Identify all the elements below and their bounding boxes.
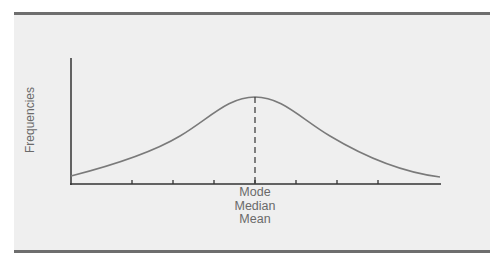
- mean-label: Mean: [205, 213, 305, 227]
- bell-curve-chart: [0, 0, 504, 267]
- center-labels: Mode Median Mean: [205, 186, 305, 227]
- median-label: Median: [205, 200, 305, 214]
- mode-label: Mode: [205, 186, 305, 200]
- y-axis-label: Frequencies: [23, 87, 37, 153]
